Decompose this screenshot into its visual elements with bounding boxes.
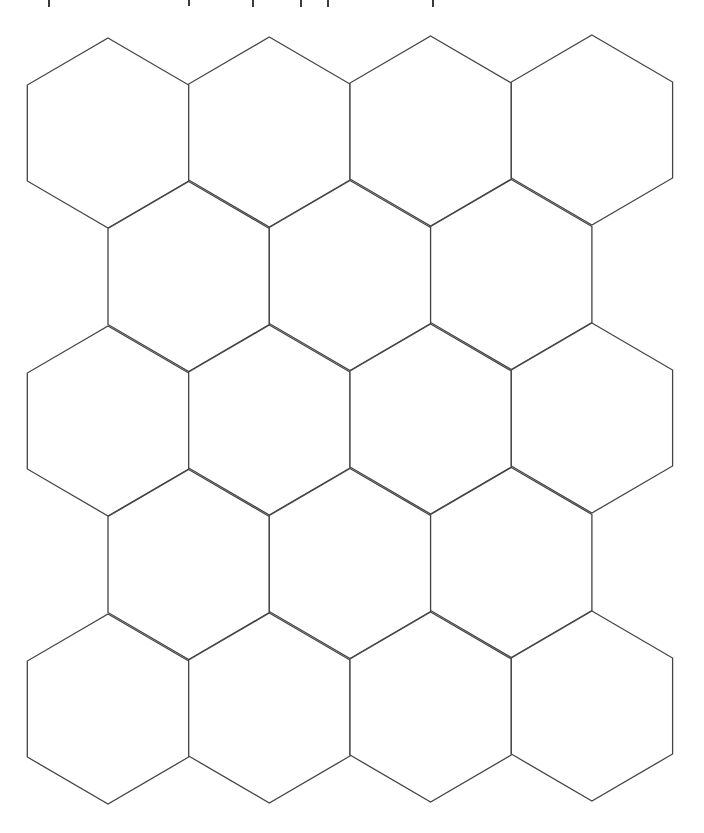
hexagon-grid-page: [0, 0, 704, 833]
hexagon-grid: [0, 0, 704, 833]
